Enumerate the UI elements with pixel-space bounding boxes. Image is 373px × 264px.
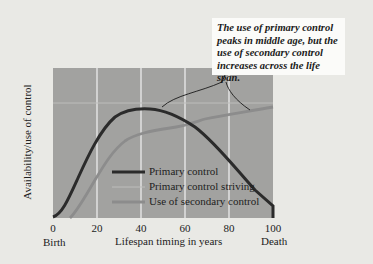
x-tick-20: 20 bbox=[92, 222, 103, 234]
callout-line: peaks in middle age, but the bbox=[217, 35, 340, 48]
x-end-label: Death bbox=[261, 235, 287, 247]
callout-line: increases across the life span. bbox=[217, 60, 340, 85]
callout-line: use of secondary control bbox=[217, 47, 340, 60]
x-tick-100: 100 bbox=[265, 222, 282, 234]
legend-label-use-of-secondary-control: Use of secondary control bbox=[149, 195, 259, 207]
x-tick-0: 0 bbox=[50, 222, 56, 234]
callout-line: The use of primary control bbox=[217, 22, 340, 35]
annotation-callout: The use of primary control peaks in midd… bbox=[212, 18, 345, 75]
y-axis-label: Availability/use of control bbox=[21, 84, 33, 199]
x-tick-80: 80 bbox=[224, 222, 235, 234]
x-tick-40: 40 bbox=[136, 222, 147, 234]
legend-label-primary-control: Primary control bbox=[149, 165, 218, 177]
x-axis-label: Lifespan timing in years bbox=[115, 235, 222, 247]
legend-label-primary-control-striving: Primary control striving bbox=[149, 180, 255, 192]
x-tick-60: 60 bbox=[180, 222, 191, 234]
x-start-label: Birth bbox=[43, 236, 66, 248]
